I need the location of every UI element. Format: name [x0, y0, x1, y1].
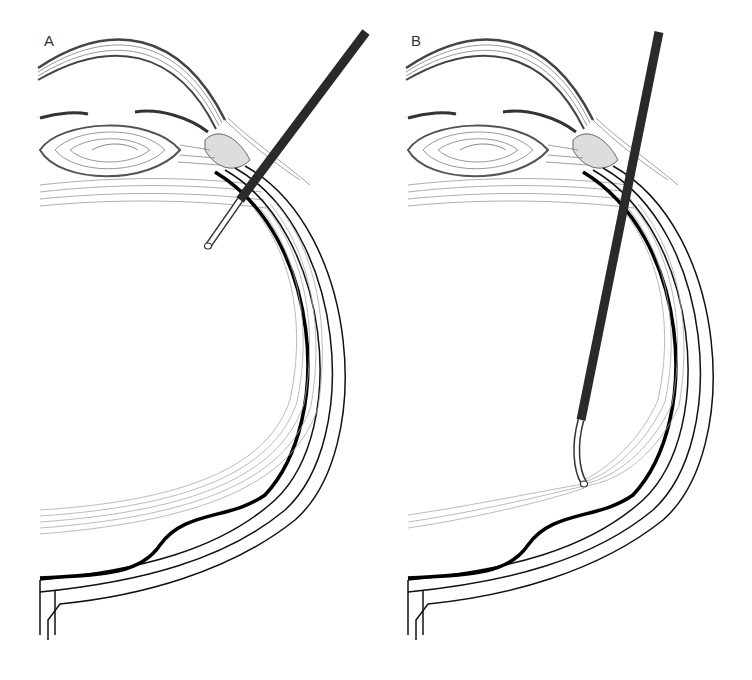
eye-diagram-a	[0, 0, 376, 680]
iris	[408, 111, 576, 132]
lens	[40, 126, 180, 177]
cornea	[406, 40, 593, 129]
ciliary-body	[205, 134, 250, 168]
vitreous-layers	[408, 204, 684, 528]
cornea	[38, 40, 225, 129]
panel-a: A	[0, 0, 376, 680]
panel-b: B	[376, 0, 752, 680]
eye-diagram-b	[376, 0, 752, 680]
ciliary-body	[573, 134, 618, 168]
lens	[408, 126, 548, 177]
vitrectomy-probe	[577, 32, 659, 487]
vitreous-layers	[40, 202, 322, 534]
iris	[40, 111, 208, 132]
eye-wall	[408, 166, 713, 640]
eye-wall	[40, 166, 345, 640]
